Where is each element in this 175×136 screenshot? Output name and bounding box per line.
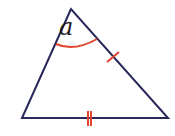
triangle <box>22 9 168 118</box>
triangle-diagram <box>0 0 175 136</box>
angle-label: a <box>59 15 73 39</box>
